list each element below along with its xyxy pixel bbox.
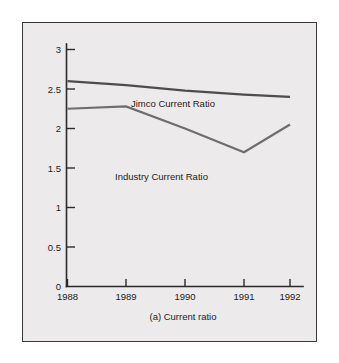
x-tick-label-1988: 1988 [57, 291, 78, 302]
y-tick-label-1-5: 1.5 [48, 163, 61, 174]
x-tick-marks [68, 279, 291, 287]
x-tick-label-1990: 1990 [174, 291, 195, 302]
y-tick-marks [67, 50, 76, 248]
y-tick-label-3: 3 [56, 44, 61, 55]
line-chart: 3 2.5 2 1.5 1 0.5 0 1988 1989 1990 1991 … [0, 0, 339, 363]
series-line-industry [68, 106, 291, 152]
y-tick-label-1: 1 [56, 202, 61, 213]
figure-caption: (a) Current ratio [149, 311, 216, 322]
y-tick-label-2-5: 2.5 [48, 84, 61, 95]
x-tick-label-1989: 1989 [115, 291, 136, 302]
series-label-industry: Industry Current Ratio [115, 171, 208, 182]
series-line-jimco [68, 81, 291, 97]
y-tick-label-2: 2 [56, 123, 61, 134]
x-tick-label-1992: 1992 [279, 291, 300, 302]
y-tick-label-0-5: 0.5 [48, 242, 61, 253]
figure-root: 3 2.5 2 1.5 1 0.5 0 1988 1989 1990 1991 … [0, 0, 339, 363]
series-label-jimco: Jimco Current Ratio [131, 98, 215, 109]
x-tick-label-1991: 1991 [233, 291, 254, 302]
